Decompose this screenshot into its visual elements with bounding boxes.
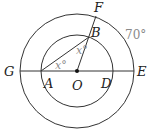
- arc-angle-label-70: 70°: [125, 28, 146, 42]
- label-D: D: [100, 76, 112, 91]
- label-A: A: [43, 76, 53, 91]
- label-B: B: [90, 25, 101, 40]
- angle-label-at-B: x°: [76, 44, 88, 57]
- label-O: O: [72, 78, 83, 93]
- label-F: F: [93, 0, 104, 15]
- center-point-O: [75, 69, 79, 73]
- label-E: E: [136, 64, 147, 79]
- angle-label-at-A: x°: [55, 59, 67, 72]
- label-G: G: [4, 64, 14, 79]
- concentric-circles-diagram: F B G E A O D x° x° 70°: [0, 0, 155, 132]
